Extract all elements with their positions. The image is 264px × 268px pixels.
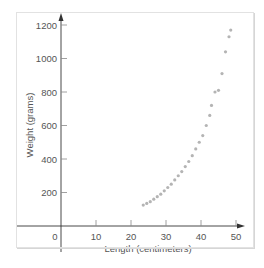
scatter-chart: 0102030405020040060080010001200 Length (… [0, 0, 264, 268]
chart-frame [16, 12, 254, 248]
